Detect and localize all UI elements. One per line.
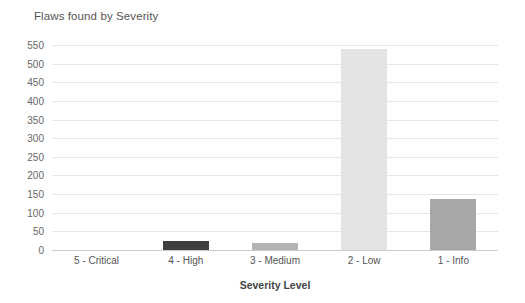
x-axis-tick-label: 3 - Medium xyxy=(230,255,319,266)
y-axis-tick-label: 350 xyxy=(27,114,44,125)
chart-title: Flaws found by Severity xyxy=(34,10,158,22)
y-axis-tick-label: 100 xyxy=(27,207,44,218)
bar-slot xyxy=(409,45,498,250)
x-axis-tick-label: 4 - High xyxy=(141,255,230,266)
y-axis-tick-label: 450 xyxy=(27,77,44,88)
y-axis-tick-labels: 050100150200250300350400450500550 xyxy=(0,0,52,303)
x-axis-tick-label: 2 - Low xyxy=(320,255,409,266)
gridline xyxy=(52,250,498,251)
y-axis-tick-label: 50 xyxy=(33,226,44,237)
x-axis-title: Severity Level xyxy=(52,279,498,291)
y-axis-tick-label: 550 xyxy=(27,40,44,51)
bar[interactable] xyxy=(430,199,476,250)
bar[interactable] xyxy=(163,241,209,250)
y-axis-tick-label: 500 xyxy=(27,58,44,69)
x-axis-tick-label: 1 - Info xyxy=(409,255,498,266)
bar-slot xyxy=(141,45,230,250)
y-axis-tick-label: 400 xyxy=(27,95,44,106)
bar-slot xyxy=(320,45,409,250)
y-axis-tick-label: 0 xyxy=(38,245,44,256)
bar-slot xyxy=(52,45,141,250)
bar-slot xyxy=(230,45,319,250)
y-axis-tick-label: 250 xyxy=(27,151,44,162)
bar-chart: Flaws found by Severity 0501001502002503… xyxy=(0,0,525,303)
bars-layer xyxy=(52,45,498,250)
x-axis-tick-labels: 5 - Critical4 - High3 - Medium2 - Low1 -… xyxy=(52,255,498,271)
bar[interactable] xyxy=(341,49,387,250)
x-axis-tick-label: 5 - Critical xyxy=(52,255,141,266)
y-axis-tick-label: 300 xyxy=(27,133,44,144)
y-axis-tick-label: 200 xyxy=(27,170,44,181)
y-axis-tick-label: 150 xyxy=(27,189,44,200)
bar[interactable] xyxy=(252,243,298,250)
